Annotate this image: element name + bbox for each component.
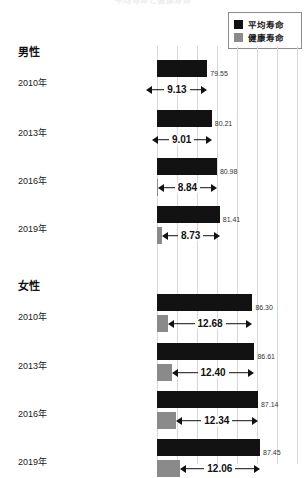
bar-average-life-expectancy xyxy=(157,343,254,360)
bar-average-life-expectancy xyxy=(157,60,207,77)
gap-value-label: 12.06 xyxy=(204,464,235,474)
gap-value-label: 8.84 xyxy=(175,183,200,193)
year-label: 2019年 xyxy=(18,222,47,235)
gap-annotation: 12.40 xyxy=(172,364,255,381)
bar-value-label: 86.30 xyxy=(255,304,273,311)
year-label: 2013年 xyxy=(18,359,47,372)
arrow-right-icon xyxy=(254,465,260,473)
gap-annotation: 12.06 xyxy=(180,460,260,477)
gap-value-label: 12.68 xyxy=(195,319,226,329)
arrow-left-icon xyxy=(146,86,152,94)
group-label-male: 男性 xyxy=(18,43,40,59)
legend-item-average: 平均寿命 xyxy=(234,18,296,30)
year-label: 2016年 xyxy=(18,174,47,187)
gap-annotation: 9.01 xyxy=(152,131,212,148)
bar-average-life-expectancy xyxy=(157,206,220,223)
gap-annotation: 9.13 xyxy=(146,81,207,98)
chart-page: 平均寿命と健康寿命 平均寿命 健康寿命 男性 女性 2010年79.559.13… xyxy=(0,0,306,478)
bar-average-life-expectancy xyxy=(157,439,260,456)
year-label: 2010年 xyxy=(18,310,47,323)
year-label: 2016年 xyxy=(18,407,47,420)
bar-value-label: 86.61 xyxy=(257,353,275,360)
bar-value-label: 81.41 xyxy=(223,216,241,223)
gridline xyxy=(297,46,298,464)
bar-value-label: 87.45 xyxy=(263,449,281,456)
chart-legend: 平均寿命 健康寿命 xyxy=(228,12,302,49)
gap-annotation: 8.73 xyxy=(162,227,220,244)
group-label-female: 女性 xyxy=(18,277,40,293)
arrow-right-icon xyxy=(211,184,217,192)
arrow-right-icon xyxy=(206,136,212,144)
arrow-left-icon xyxy=(158,184,164,192)
legend-swatch-average-icon xyxy=(234,20,243,29)
gap-value-label: 9.01 xyxy=(169,135,194,145)
bar-value-label: 87.14 xyxy=(261,401,279,408)
arrow-left-icon xyxy=(180,465,186,473)
bar-average-life-expectancy xyxy=(157,391,258,408)
chart-title: 平均寿命と健康寿命 xyxy=(0,0,306,5)
arrow-left-icon xyxy=(172,369,178,377)
gap-annotation: 8.84 xyxy=(158,179,217,196)
bar-average-life-expectancy xyxy=(157,110,212,127)
arrow-right-icon xyxy=(201,86,207,94)
year-label: 2013年 xyxy=(18,126,47,139)
gap-value-label: 8.73 xyxy=(178,231,203,241)
bar-healthy-life-expectancy xyxy=(157,315,168,332)
arrow-left-icon xyxy=(176,417,182,425)
arrow-right-icon xyxy=(246,320,252,328)
arrow-right-icon xyxy=(252,417,258,425)
arrow-right-icon xyxy=(214,232,220,240)
arrow-left-icon xyxy=(162,232,168,240)
year-label: 2010年 xyxy=(18,76,47,89)
legend-label-healthy: 健康寿命 xyxy=(248,31,284,43)
gap-annotation: 12.68 xyxy=(168,315,253,332)
gap-value-label: 12.34 xyxy=(201,416,232,426)
legend-label-average: 平均寿命 xyxy=(248,18,284,30)
legend-swatch-healthy-icon xyxy=(234,33,243,42)
bar-value-label: 79.55 xyxy=(210,70,228,77)
gap-value-label: 12.40 xyxy=(198,368,229,378)
bar-value-label: 80.98 xyxy=(220,168,238,175)
arrow-left-icon xyxy=(168,320,174,328)
arrow-left-icon xyxy=(152,136,158,144)
gap-annotation: 12.34 xyxy=(176,412,258,429)
bar-average-life-expectancy xyxy=(157,158,217,175)
bar-average-life-expectancy xyxy=(157,294,252,311)
arrow-right-icon xyxy=(248,369,254,377)
bar-value-label: 80.21 xyxy=(215,120,233,127)
gap-value-label: 9.13 xyxy=(164,85,189,95)
year-label: 2019年 xyxy=(18,455,47,468)
bar-healthy-life-expectancy xyxy=(157,412,176,429)
bar-healthy-life-expectancy xyxy=(157,460,180,477)
legend-item-healthy: 健康寿命 xyxy=(234,31,296,43)
bar-healthy-life-expectancy xyxy=(157,364,172,381)
